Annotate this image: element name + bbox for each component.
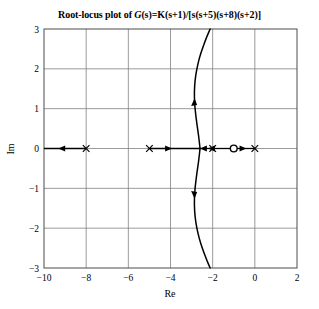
zero-markers <box>230 145 237 152</box>
x-tick-label: −6 <box>123 273 133 283</box>
root-locus-figure: Root-locus plot of G(s)=K(s+1)/[s(s+5)(s… <box>0 0 319 309</box>
real-axis-direction-arrow <box>200 145 207 151</box>
x-tick-label: −2 <box>208 273 218 283</box>
locus-curve <box>194 149 210 269</box>
x-tick-label: 0 <box>252 273 257 283</box>
y-tick-label: 1 <box>34 104 39 114</box>
real-axis-direction-arrow <box>208 145 215 151</box>
real-axis-direction-arrow <box>165 145 172 151</box>
y-axis-label: Im <box>5 143 16 154</box>
real-axis-direction-arrow <box>58 145 65 151</box>
y-tick-label: −2 <box>29 224 39 234</box>
locus-curve <box>194 29 210 149</box>
locus-direction-arrow <box>191 191 197 199</box>
x-tick-label: −4 <box>165 273 175 283</box>
y-axis-ticks: −3−2−10123 <box>29 25 39 274</box>
chart-canvas: −10−8−6−4−202 −3−2−10123 Re Im <box>0 0 319 309</box>
y-tick-label: 0 <box>34 144 39 154</box>
x-tick-label: −10 <box>37 273 52 283</box>
locus-direction-arrow <box>191 98 197 106</box>
zero-marker-circle-icon <box>230 145 237 152</box>
y-tick-label: 3 <box>34 25 39 35</box>
x-tick-label: 2 <box>295 273 300 283</box>
x-axis-ticks: −10−8−6−4−202 <box>37 273 300 283</box>
y-tick-label: −3 <box>29 264 39 274</box>
y-tick-label: −1 <box>29 184 39 194</box>
y-tick-label: 2 <box>34 64 39 74</box>
x-axis-label: Re <box>164 288 176 299</box>
x-tick-label: −8 <box>81 273 91 283</box>
real-axis-direction-arrow <box>240 145 247 151</box>
